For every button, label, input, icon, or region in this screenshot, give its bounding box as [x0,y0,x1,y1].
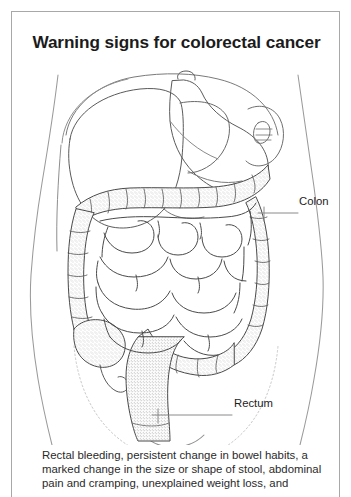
body-line: Rectal bleeding, persistent change in bo… [42,448,328,462]
body-line: pain and cramping, unexplained weight lo… [42,476,328,490]
descending-colon [226,197,270,365]
cecum [74,320,128,393]
page-title: Warning signs for colorectal cancer [12,32,340,53]
info-card: Warning signs for colorectal cancer [11,11,340,497]
body-line: marked change in the size or shape of st… [42,462,328,476]
warning-signs-text: Rectal bleeding, persistent change in bo… [42,448,328,491]
transverse-colon [76,165,270,221]
label-rectum: Rectum [234,397,273,409]
label-colon: Colon [299,195,329,207]
colorectal-anatomy-illustration [12,61,340,445]
